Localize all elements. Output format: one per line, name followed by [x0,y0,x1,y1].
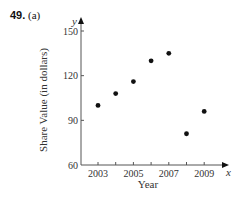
x-tick-label: 2007 [159,168,179,179]
x-tick-label: 2009 [194,168,214,179]
scatter-chart: 60901201502003200520072009 Year Share Va… [0,0,241,197]
y-axis-variable: y [71,15,77,27]
data-point [149,58,154,63]
y-axis-title: Share Value (in dollars) [37,48,50,152]
data-point [184,131,189,136]
y-tick-label: 60 [68,160,78,171]
data-point [166,51,171,56]
axis-labels: Year Share Value (in dollars) y x [37,15,231,190]
x-tick-label: 2003 [88,168,108,179]
y-tick-label: 90 [68,115,78,126]
data-point [131,79,136,84]
data-point [96,103,101,108]
x-axis-title: Year [138,178,159,190]
x-axis-variable: x [225,166,231,178]
y-tick-label: 150 [63,26,78,37]
y-tick-label: 120 [63,70,78,81]
axes: 60901201502003200520072009 [63,17,229,179]
data-point [202,109,207,114]
data-points [96,51,207,136]
y-axis-arrow-icon [78,17,84,24]
data-point [113,91,118,96]
